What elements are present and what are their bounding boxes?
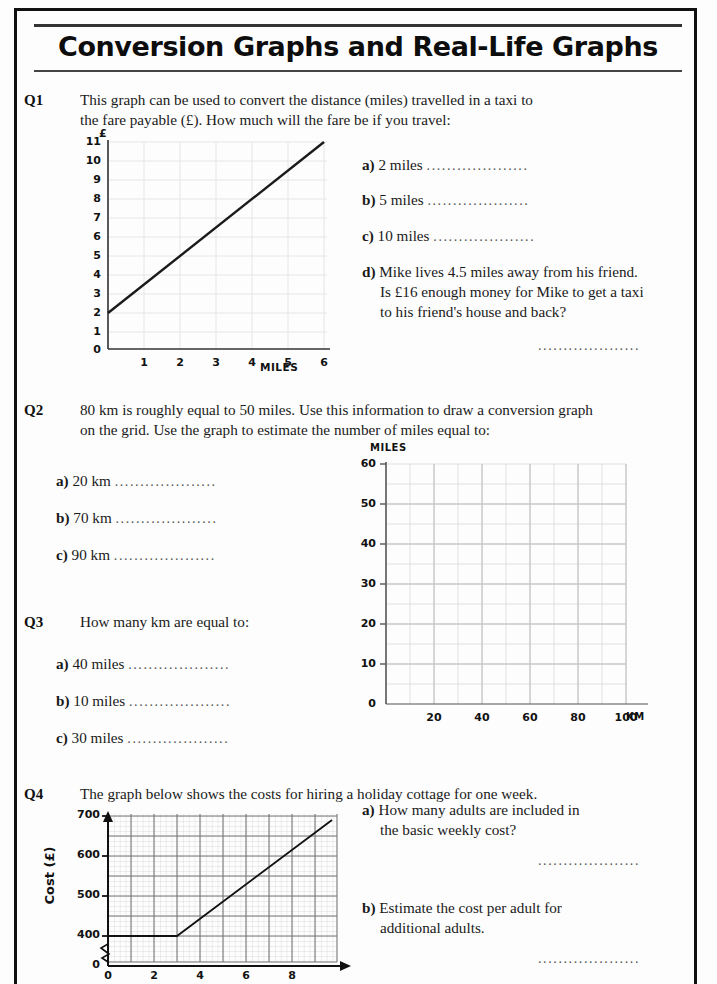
q1-part-d-line2: Is £16 enough money for Mike to get a ta… bbox=[380, 283, 644, 300]
q3-part-b: b) 10 miles .................... bbox=[56, 691, 231, 712]
q4-part-b: b) Estimate the cost per adult for bbox=[362, 898, 562, 918]
q1-part-a-marker: a) bbox=[362, 156, 375, 173]
q2-ytick-40: 40 bbox=[348, 537, 376, 550]
q2-y-axis-label: MILES bbox=[370, 442, 407, 453]
q1-xtick-5: 5 bbox=[276, 356, 300, 369]
q3-part-a-answer-line[interactable]: .................... bbox=[128, 657, 230, 672]
q2-part-c-answer-line[interactable]: .................... bbox=[114, 548, 216, 563]
q2-xtick-100: 100 bbox=[611, 711, 641, 724]
q1-part-c: c) 10 miles .................... bbox=[362, 226, 535, 247]
question-label-q1: Q1 bbox=[24, 92, 43, 109]
q1-ytick-8: 8 bbox=[75, 192, 101, 205]
q4-part-a-line1: How many adults are included in bbox=[378, 801, 579, 818]
q2-part-a: a) 20 km .................... bbox=[56, 471, 217, 492]
q4-xtick-6: 6 bbox=[234, 969, 258, 982]
q2-ytick-0: 0 bbox=[348, 697, 376, 710]
q1-ytick-10: 10 bbox=[75, 154, 101, 167]
q4-part-a-answer-line[interactable]: .................... bbox=[538, 853, 640, 869]
q2-xtick-40: 40 bbox=[470, 711, 494, 724]
q3-part-b-marker: b) bbox=[56, 692, 70, 709]
q4-xtick-0: 0 bbox=[96, 969, 120, 982]
question-text-q2-line2: on the grid. Use the graph to estimate t… bbox=[80, 420, 690, 440]
q2-part-c-text: 90 km bbox=[72, 546, 110, 563]
q3-part-a-marker: a) bbox=[56, 655, 69, 672]
q1-part-d-line3: to his friend's house and back? bbox=[380, 303, 566, 320]
q2-ytick-60: 60 bbox=[348, 457, 376, 470]
q3-part-b-text: 10 miles bbox=[73, 692, 125, 709]
q1-part-c-marker: c) bbox=[362, 227, 374, 244]
q4-part-b-answer-line[interactable]: .................... bbox=[538, 951, 640, 967]
q1-ytick-6: 6 bbox=[75, 230, 101, 243]
q2-part-b-answer-line[interactable]: .................... bbox=[116, 511, 218, 526]
q1-part-d-line3-wrap: to his friend's house and back? bbox=[380, 302, 566, 322]
q1-ytick-9: 9 bbox=[75, 173, 101, 186]
q4-part-b-line2: additional adults. bbox=[380, 919, 485, 936]
q1-part-b-marker: b) bbox=[362, 191, 376, 208]
question-label-q4: Q4 bbox=[24, 786, 43, 803]
q1-part-b-answer-line[interactable]: .................... bbox=[427, 193, 529, 208]
q4-ytick-600: 600 bbox=[68, 848, 100, 861]
q1-ytick-3: 3 bbox=[75, 287, 101, 300]
q4-y-axis-label: Cost (£) bbox=[42, 831, 57, 921]
page-title: Conversion Graphs and Real-Life Graphs bbox=[34, 26, 682, 68]
q2-part-a-marker: a) bbox=[56, 472, 69, 489]
q4-part-a: a) How many adults are included in bbox=[362, 800, 580, 820]
q3-part-a: a) 40 miles .................... bbox=[56, 654, 230, 675]
q4-part-b-marker: b) bbox=[362, 899, 376, 916]
q2-xtick-80: 80 bbox=[566, 711, 590, 724]
q1-xtick-1: 1 bbox=[132, 356, 156, 369]
q1-part-d-answer-line[interactable]: .................... bbox=[538, 338, 640, 354]
q1-ytick-7: 7 bbox=[75, 211, 101, 224]
q3-part-c-answer-line[interactable]: .................... bbox=[127, 731, 229, 746]
page-border-left bbox=[14, 8, 17, 984]
q1-part-b: b) 5 miles .................... bbox=[362, 190, 529, 211]
q1-ytick-0: 0 bbox=[75, 343, 101, 356]
q2-km-miles-grid: MILES KM 60 50 40 30 20 10 0 20 40 60 80… bbox=[348, 442, 658, 727]
q2-xtick-60: 60 bbox=[518, 711, 542, 724]
q3-part-c: c) 30 miles .................... bbox=[56, 728, 229, 749]
q1-part-c-answer-line[interactable]: .................... bbox=[433, 229, 535, 244]
q3-part-c-marker: c) bbox=[56, 729, 68, 746]
q3-part-b-answer-line[interactable]: .................... bbox=[129, 694, 231, 709]
q2-part-a-answer-line[interactable]: .................... bbox=[115, 474, 217, 489]
q2-ytick-30: 30 bbox=[348, 577, 376, 590]
q2-part-c-marker: c) bbox=[56, 546, 68, 563]
page-border-right bbox=[694, 8, 697, 984]
question-text-q3-line1: How many km are equal to: bbox=[80, 612, 330, 632]
q4-xtick-2: 2 bbox=[142, 969, 166, 982]
q4-ytick-400: 400 bbox=[68, 928, 100, 941]
q2-part-b-text: 70 km bbox=[73, 509, 111, 526]
q1-part-d-line2-wrap: Is £16 enough money for Mike to get a ta… bbox=[380, 282, 644, 302]
title-rule-bottom bbox=[34, 70, 682, 72]
page-border-top bbox=[14, 8, 697, 11]
q4-part-b-line1: Estimate the cost per adult for bbox=[379, 899, 562, 916]
q4-xtick-8: 8 bbox=[280, 969, 304, 982]
q2-ytick-50: 50 bbox=[348, 497, 376, 510]
q4-ytick-500: 500 bbox=[68, 888, 100, 901]
q1-part-d-marker: d) bbox=[362, 263, 376, 280]
q2-graph-svg bbox=[348, 442, 658, 727]
q1-part-a: a) 2 miles .................... bbox=[362, 155, 529, 176]
q2-ytick-20: 20 bbox=[348, 617, 376, 630]
q2-y-ticks bbox=[380, 464, 386, 664]
question-label-q2: Q2 bbox=[24, 402, 43, 419]
q2-part-c: c) 90 km .................... bbox=[56, 545, 216, 566]
q4-xtick-4: 4 bbox=[188, 969, 212, 982]
q1-part-a-answer-line[interactable]: .................... bbox=[427, 158, 529, 173]
q3-part-a-text: 40 miles bbox=[72, 655, 124, 672]
q1-ytick-1: 1 bbox=[75, 325, 101, 338]
question-text-q2-line1: 80 km is roughly equal to 50 miles. Use … bbox=[80, 400, 690, 420]
q2-part-b-marker: b) bbox=[56, 509, 70, 526]
q1-ytick-2: 2 bbox=[75, 306, 101, 319]
question-label-q3: Q3 bbox=[24, 614, 43, 631]
q4-part-a-line2: the basic weekly cost? bbox=[380, 821, 516, 838]
question-text-q1-line1: This graph can be used to convert the di… bbox=[80, 90, 680, 110]
q2-part-a-text: 20 km bbox=[72, 472, 110, 489]
q1-part-b-text: 5 miles bbox=[379, 191, 423, 208]
q1-taxi-fare-graph: £ MILES 11 10 9 8 7 6 5 4 3 2 1 0 1 2 3 … bbox=[75, 130, 340, 380]
q1-part-d: d) Mike lives 4.5 miles away from his fr… bbox=[362, 262, 638, 282]
q4-part-b-line2-wrap: additional adults. bbox=[380, 918, 485, 938]
q1-ytick-4: 4 bbox=[75, 268, 101, 281]
q2-part-b: b) 70 km .................... bbox=[56, 508, 218, 529]
q2-xtick-20: 20 bbox=[422, 711, 446, 724]
